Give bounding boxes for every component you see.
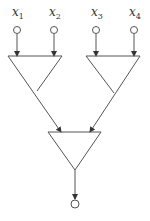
left-gate-triangle: [8, 56, 62, 132]
output-node: [71, 200, 79, 208]
input-label-x4: x4: [129, 5, 141, 21]
input-node-x1: [14, 27, 21, 34]
input-label-x3: x3: [91, 5, 103, 21]
input-node-x2: [51, 27, 58, 34]
input-label-x2: x2: [49, 5, 61, 21]
input-label-x1: x1: [12, 5, 24, 21]
right-gate-triangle: [86, 56, 140, 132]
input-node-x3: [93, 27, 100, 34]
network-diagram: x1 x2 x3 x4: [0, 0, 150, 221]
input-node-x4: [131, 27, 138, 34]
output-gate-triangle: [48, 132, 101, 170]
